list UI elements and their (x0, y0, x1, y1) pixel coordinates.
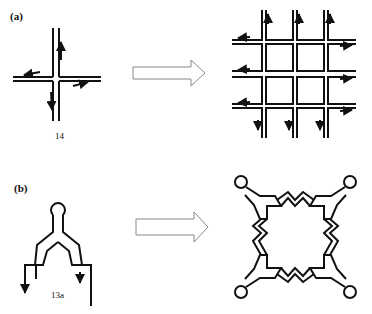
cross-building-block-14 (13, 28, 101, 121)
y-building-block-13a (25, 203, 91, 306)
diagram-canvas (0, 0, 372, 314)
reaction-arrow-a (133, 60, 205, 86)
grid-network-product (232, 10, 356, 138)
macrocycle-product (235, 176, 356, 298)
reaction-arrow-b (136, 212, 208, 242)
